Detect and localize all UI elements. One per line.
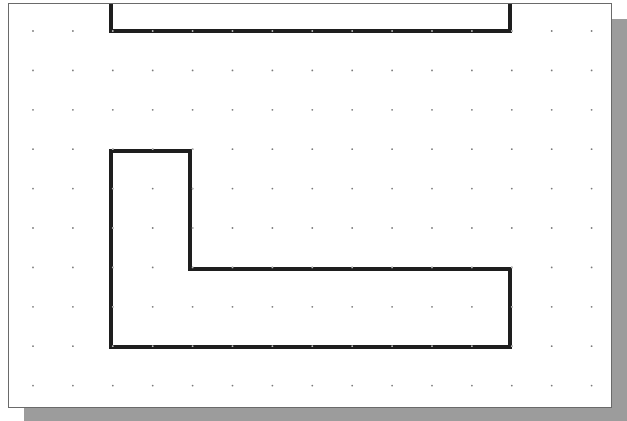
top-open-rectangle[interactable] bbox=[111, 0, 510, 31]
l-shape[interactable] bbox=[111, 151, 510, 347]
sketch-drawing bbox=[0, 0, 627, 421]
